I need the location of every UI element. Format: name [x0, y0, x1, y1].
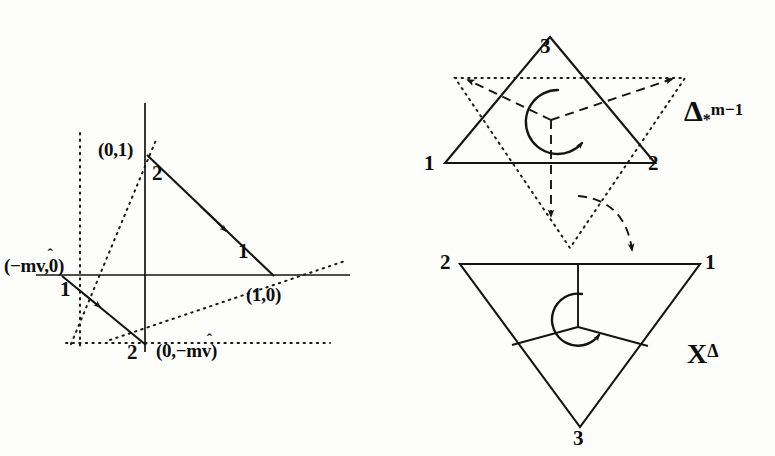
- x-superscript: Δ: [707, 341, 718, 361]
- figure-canvas: [0, 0, 775, 456]
- label-edge-1-lower: 1: [60, 279, 71, 300]
- hat-accent-wrap-2: ˆv): [202, 341, 217, 360]
- label-point-neg-mv-0: (−mˆv,0): [4, 256, 64, 275]
- label-edge-2-lower: 2: [127, 342, 138, 363]
- label-star-vertex-2: 2: [648, 153, 659, 174]
- simplex-edge-upper-arrow: [200, 206, 226, 231]
- label-star-vertex-3: 3: [540, 36, 551, 57]
- rotation-arrow-dual: [552, 294, 599, 346]
- neg-mv-open: (−m: [4, 255, 36, 276]
- curved-dashed-transition-arrow: [578, 196, 632, 250]
- delta-subscript: *: [703, 111, 711, 128]
- label-symbol-x-delta: XΔ: [687, 340, 719, 368]
- star-diagram-group: [445, 37, 685, 248]
- spine-to-left-edge: [512, 327, 578, 345]
- hat-accent-icon: ˆ: [47, 247, 52, 263]
- dashed-spoke-upper-right: [551, 79, 672, 120]
- simplex-edge-lower: [62, 276, 146, 345]
- hat-accent-wrap-1: ˆv,0): [36, 256, 64, 275]
- label-edge-1-upper: 1: [238, 241, 249, 262]
- delta-superscript: m−1: [711, 100, 743, 119]
- zero-neg-mv-open: (0,−m: [156, 340, 202, 361]
- label-point-0-neg-mv: (0,−mˆv): [156, 341, 217, 360]
- dotted-rising-guide: [71, 140, 156, 344]
- label-point-0-1: (0,1): [98, 140, 133, 159]
- hat-accent-icon-2: ˆ: [207, 332, 212, 348]
- simplex-edge-lower-arrow: [78, 289, 100, 307]
- figure-root: (0,1) (1,0) (−mˆv,0) (0,−mˆv) 2 1 1 2 1 …: [0, 0, 775, 456]
- label-dual-vertex-2: 2: [440, 252, 451, 273]
- label-point-1-0: (1,0): [246, 285, 281, 304]
- left-plot-group: [36, 103, 350, 352]
- label-dual-vertex-1: 1: [705, 252, 716, 273]
- label-star-vertex-1: 1: [424, 153, 435, 174]
- dual-cell-group: [460, 264, 700, 427]
- label-dual-vertex-3: 3: [573, 428, 584, 449]
- label-edge-2-upper: 2: [152, 163, 163, 184]
- x-glyph: X: [687, 338, 707, 369]
- rotation-arrow-star: [526, 90, 582, 154]
- delta-glyph: Δ: [684, 94, 703, 127]
- label-symbol-delta-star: Δ*m−1: [684, 96, 743, 128]
